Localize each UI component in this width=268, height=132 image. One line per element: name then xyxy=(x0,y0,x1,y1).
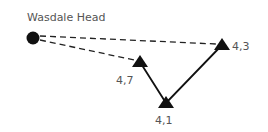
solid-route xyxy=(140,45,222,103)
triangle-marker-icon-4-3 xyxy=(214,38,230,50)
dashed-line-to-4-3 xyxy=(40,36,216,44)
point-label-4-1: 4,1 xyxy=(155,114,173,127)
route-diagram: Wasdale Head 4,7 4,1 4,3 xyxy=(0,0,268,132)
wasdale-head-label: Wasdale Head xyxy=(27,11,105,24)
point-label-4-7: 4,7 xyxy=(116,74,134,87)
dashed-line-to-4-7 xyxy=(40,40,134,60)
wasdale-head-marker-icon xyxy=(27,32,40,45)
triangle-marker-icon-4-7 xyxy=(132,55,148,67)
point-label-4-3: 4,3 xyxy=(232,40,250,53)
